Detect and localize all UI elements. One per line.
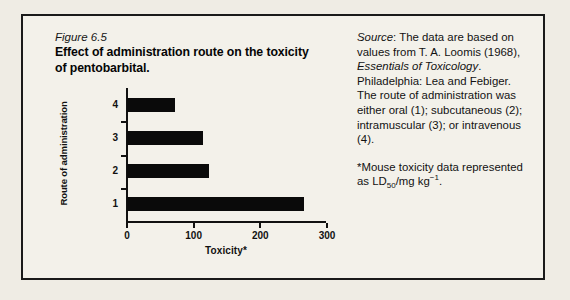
x-tick-mark — [193, 223, 195, 228]
footnote-end: . — [439, 175, 442, 187]
x-tick-label-300: 300 — [307, 230, 347, 241]
figure-title: Effect of administration route on the to… — [55, 45, 323, 76]
x-axis-label: Toxicity* — [126, 245, 326, 256]
y-tick-mark — [121, 188, 126, 190]
y-tick-label-3: 3 — [104, 132, 118, 143]
bar-route-4 — [127, 98, 175, 112]
x-tick-mark — [326, 223, 328, 228]
bar-route-2 — [127, 164, 209, 178]
y-tick-label-2: 2 — [104, 165, 118, 176]
x-axis-line — [126, 221, 326, 223]
footnote-superscript: −1 — [430, 174, 439, 183]
y-tick-label-4: 4 — [104, 99, 118, 110]
footnote-mid: /mg kg — [396, 175, 430, 187]
x-tick-label-200: 200 — [240, 230, 280, 241]
figure-panel: Figure 6.5 Effect of administration rout… — [21, 14, 545, 280]
figure-number: Figure 6.5 — [55, 30, 337, 45]
footnote-subscript: 50 — [387, 182, 396, 191]
figure-right-column: Source: The data are based on values fro… — [357, 30, 531, 189]
x-tick-mark — [259, 223, 261, 228]
bar-chart: Route of administration 1234 0100200300 … — [37, 84, 337, 270]
bar-route-1 — [127, 197, 304, 211]
figure-left-column: Figure 6.5 Effect of administration rout… — [37, 26, 337, 270]
y-tick-mark — [121, 121, 126, 123]
bar-route-3 — [127, 131, 203, 145]
source-work-title: Essentials of Toxicology — [357, 60, 478, 72]
y-tick-label-1: 1 — [104, 198, 118, 209]
source-note: Source: The data are based on values fro… — [357, 30, 531, 147]
x-tick-mark — [126, 223, 128, 228]
footnote: *Mouse toxicity data represented as LD50… — [357, 147, 531, 189]
figure-caption: Figure 6.5 Effect of administration rout… — [37, 26, 337, 76]
y-tick-mark — [121, 155, 126, 157]
x-tick-label-100: 100 — [174, 230, 214, 241]
plot-area: 1234 0100200300 — [126, 88, 326, 221]
y-axis-label: Route of administration — [58, 86, 69, 222]
source-text-tail: . Philadelphia: Lea and Febiger. The rou… — [357, 60, 522, 145]
x-tick-label-0: 0 — [107, 230, 147, 241]
source-label: Source — [357, 31, 393, 43]
